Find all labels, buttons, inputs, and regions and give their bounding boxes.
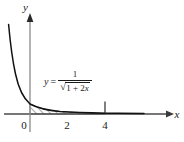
equation-equals: = [50, 77, 56, 87]
equation-numerator: 1 [70, 70, 81, 80]
x-axis-arrowhead [166, 111, 174, 118]
plot-canvas: y x 0 2 4 [0, 0, 184, 142]
x-axis-label: x [174, 108, 180, 120]
equation-fraction: 1 √ 1 + 2x [58, 70, 92, 93]
y-axis-label: y [22, 1, 28, 13]
radicand-variable: x [85, 83, 89, 93]
radical-expression: √ 1 + 2x [60, 82, 90, 93]
equation-denominator: √ 1 + 2x [58, 81, 92, 93]
y-axis-arrowhead [27, 13, 34, 22]
radicand-terms: 1 + 2 [66, 83, 85, 93]
x-tick-label-0: 0 [21, 119, 27, 131]
x-tick-label-2: 2 [64, 119, 70, 131]
equation-annotation: y = 1 √ 1 + 2x [44, 70, 92, 93]
radicand: 1 + 2x [65, 82, 90, 93]
equation-lhs: y [44, 77, 48, 87]
radical-sign-icon: √ [60, 82, 66, 92]
figure-container: y x 0 2 4 y = 1 √ 1 + 2x [0, 0, 184, 142]
x-tick-label-4: 4 [102, 119, 108, 131]
